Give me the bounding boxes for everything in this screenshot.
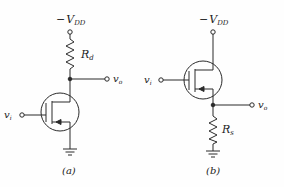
resistor-rs-icon <box>209 116 217 144</box>
mosfet-b-icon <box>184 61 222 99</box>
circuit-a: −VDD Rd vo <box>4 13 123 176</box>
resistor-label-rd: Rd <box>80 48 94 62</box>
resistor-label-rs: Rs <box>221 123 234 137</box>
supply-terminal-b <box>211 30 215 34</box>
input-terminal-b[interactable] <box>159 78 163 82</box>
supply-label-b: −VDD <box>199 13 229 27</box>
input-label-a: vi <box>4 109 12 121</box>
resistor-rd-icon <box>66 39 74 69</box>
mosfet-a-icon <box>41 93 79 131</box>
caption-b: (b) <box>206 165 220 176</box>
output-terminal-b[interactable] <box>250 103 254 107</box>
input-label-b: vi <box>144 74 152 86</box>
circuit-svg: −VDD Rd vo <box>0 0 284 187</box>
supply-label-a: −VDD <box>56 13 86 27</box>
circuit-figure: −VDD Rd vo <box>0 0 284 187</box>
output-terminal-a[interactable] <box>105 77 109 81</box>
input-terminal-a[interactable] <box>20 113 24 117</box>
output-label-a: vo <box>113 73 123 85</box>
ground-a-icon <box>63 149 77 155</box>
supply-terminal-a <box>68 30 72 34</box>
circuit-b: −VDD vi vo Rs <box>144 13 268 176</box>
caption-a: (a) <box>62 165 76 176</box>
ground-b-icon <box>206 151 220 157</box>
output-label-b: vo <box>258 99 268 111</box>
